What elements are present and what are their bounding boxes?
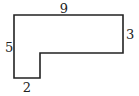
label-top-side: 9 [60, 1, 68, 16]
l-shape-diagram: 9 3 5 2 [0, 0, 139, 96]
label-left-side: 5 [5, 40, 13, 55]
label-bottom-side: 2 [23, 80, 31, 95]
l-shape-outline [14, 15, 123, 78]
label-right-side: 3 [126, 27, 134, 42]
